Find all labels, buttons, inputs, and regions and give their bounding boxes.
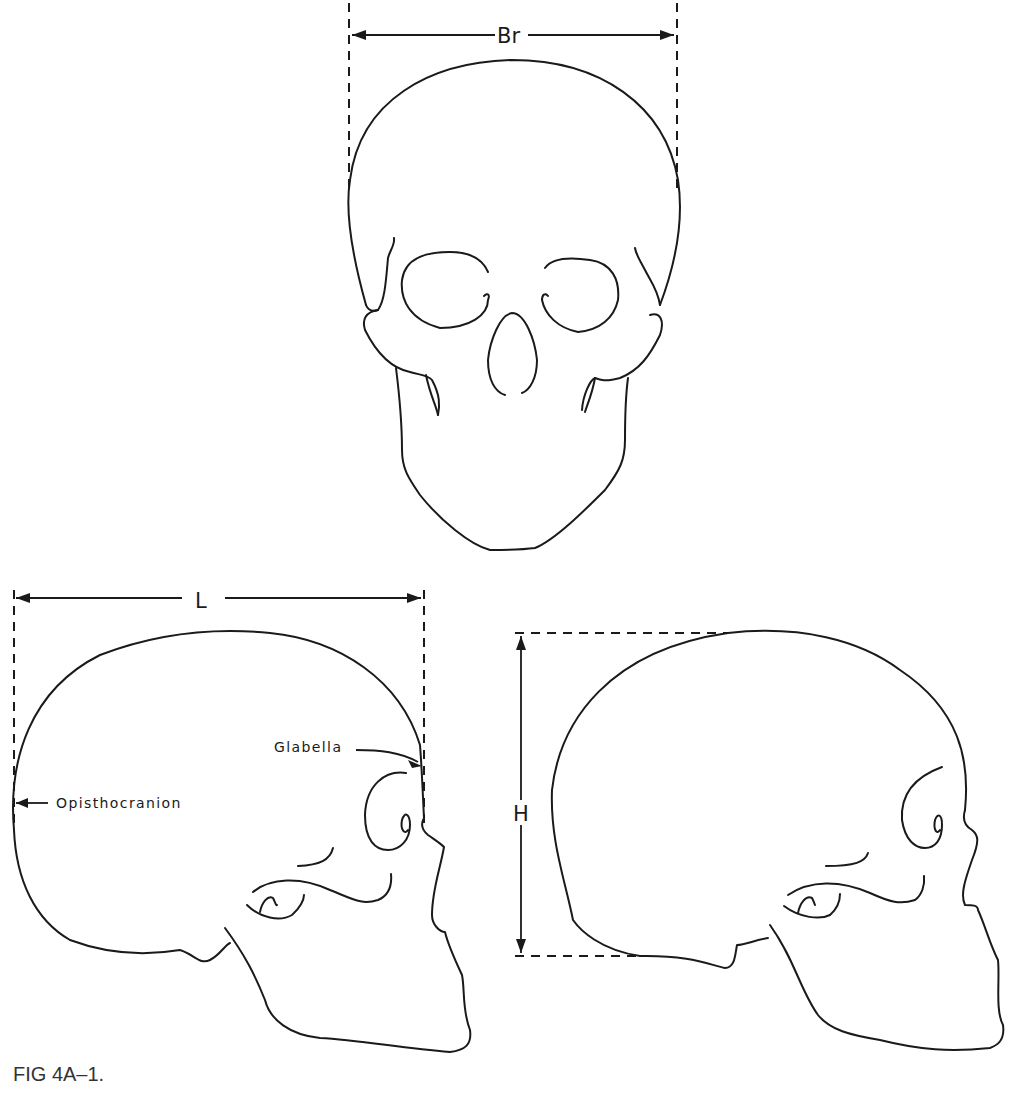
breadth-dimension: Br (349, 3, 677, 195)
figure-caption: FIG 4A–1. (13, 1063, 104, 1086)
landmark-glabella: Glabella (274, 739, 422, 768)
left-orbit (402, 252, 489, 328)
lateral-skull-height: H (513, 631, 1003, 1050)
breadth-label: Br (497, 24, 520, 48)
skull-measurement-diagram: Br L (0, 0, 1026, 1096)
glabella-label: Glabella (274, 739, 342, 755)
lateral-orbit-2 (902, 767, 942, 848)
frontal-cranium-outline (348, 60, 679, 305)
right-orbit (542, 259, 618, 332)
length-label: L (195, 589, 207, 613)
nasal-aperture (488, 313, 537, 395)
length-dimension: L (14, 589, 424, 830)
opisthocranion-label: Opisthocranion (56, 795, 182, 811)
lateral-skull-length: L (13, 589, 470, 1052)
frontal-skull: Br (348, 3, 679, 550)
landmark-opisthocranion: Opisthocranion (16, 795, 182, 811)
lateral-cranium-outline-2 (552, 631, 966, 956)
height-label: H (513, 802, 529, 826)
lateral-orbit (365, 773, 410, 850)
height-dimension: H (513, 633, 728, 956)
